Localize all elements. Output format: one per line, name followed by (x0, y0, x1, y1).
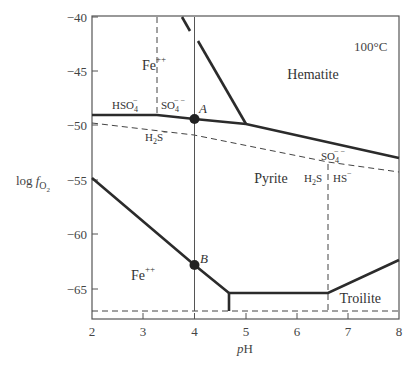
point-b-marker (190, 260, 200, 270)
x-tick-label: 5 (243, 324, 250, 339)
pyrite-label: Pyrite (254, 171, 287, 186)
h2s-lower-label: H2S (304, 172, 322, 187)
y-tick-label: −50 (67, 118, 87, 133)
y-tick-label: −45 (67, 64, 87, 79)
y-axis-label: logfO2 (16, 173, 50, 194)
x-tick-label: 4 (191, 324, 198, 339)
y-tick-label: −65 (67, 282, 87, 297)
h2s-upper-label: H2S− (145, 128, 168, 146)
solid-boundaries (92, 17, 399, 311)
fe-lower-label: Fe++ (131, 264, 155, 283)
y-tick-label: −55 (67, 173, 87, 188)
point-b-label: B (200, 251, 208, 266)
troilite-label: Troilite (340, 291, 382, 306)
dashed-boundaries (92, 17, 399, 311)
x-axis-labels: 2 3 4 5 6 7 8 (89, 324, 403, 339)
y-axis-ticks (92, 17, 98, 289)
y-tick-label: −40 (67, 10, 87, 25)
hematite-label: Hematite (287, 67, 338, 82)
x-tick-label: 2 (89, 324, 96, 339)
hematite-fe-boundary-upper (182, 17, 190, 31)
hs-label: HS− (333, 169, 352, 184)
temperature-label: 100°C (354, 39, 387, 54)
x-tick-label: 7 (345, 324, 352, 339)
point-a-marker (190, 114, 200, 124)
x-tick-label: 8 (396, 324, 403, 339)
phase-diagram: −40 −45 −50 −55 −60 −65 2 3 4 5 6 7 8 pH… (0, 0, 418, 365)
x-axis-ticks (143, 313, 348, 319)
so4-upper-label: SO4− − (161, 96, 186, 114)
fe-upper-label: Fe++ (142, 54, 166, 73)
x-axis-label: pH (236, 341, 253, 356)
y-axis-labels: −40 −45 −50 −55 −60 −65 (67, 10, 87, 297)
y-tick-label: −60 (67, 227, 87, 242)
point-a-label: A (198, 101, 207, 116)
hso4-label: HSO4− (112, 96, 138, 114)
x-tick-label: 3 (140, 324, 147, 339)
fe-pyrite-boundary (92, 178, 229, 293)
x-tick-label: 6 (294, 324, 301, 339)
pyrite-troilite-boundary (229, 260, 399, 293)
